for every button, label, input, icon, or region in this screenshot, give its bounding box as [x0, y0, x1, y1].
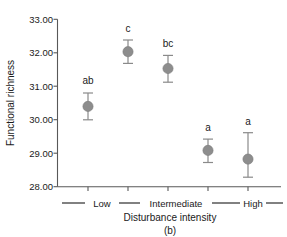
point-significance-label-5: a — [245, 116, 251, 127]
group-label-intermediate: Intermediate — [150, 198, 203, 209]
data-marker-3[interactable] — [163, 63, 173, 73]
y-tick-label: 33.00 — [29, 14, 53, 25]
data-point-group-3[interactable]: bc — [163, 38, 174, 82]
x-axis-group-brackets: Low Intermediate High — [62, 198, 283, 209]
x-axis-title: Disturbance intensity — [124, 212, 217, 223]
data-marker-1[interactable] — [83, 101, 93, 111]
figure-panel: Functional richness 33.00 32.00 31.00 30… — [0, 0, 287, 237]
group-label-high: High — [243, 198, 263, 209]
data-point-group-4[interactable]: a — [203, 122, 213, 163]
data-marker-4[interactable] — [203, 145, 213, 155]
point-significance-label-2: c — [126, 23, 131, 34]
point-significance-label-4: a — [205, 122, 211, 133]
y-tick-label: 28.00 — [29, 181, 53, 192]
y-axis-title: Functional richness — [5, 60, 16, 146]
point-significance-label-1: ab — [82, 75, 94, 86]
group-label-low: Low — [93, 198, 111, 209]
y-tick-label: 29.00 — [29, 148, 53, 159]
panel-caption: (b) — [164, 225, 176, 236]
x-axis-tick-marks — [88, 187, 248, 191]
data-point-group-2[interactable]: c — [123, 23, 133, 63]
y-tick-label: 30.00 — [29, 114, 53, 125]
data-point-group-5[interactable]: a — [243, 116, 253, 177]
y-tick-label: 31.00 — [29, 81, 53, 92]
functional-richness-scatter-chart: Functional richness 33.00 32.00 31.00 30… — [0, 0, 287, 237]
data-marker-5[interactable] — [243, 154, 253, 164]
y-tick-label: 32.00 — [29, 47, 53, 58]
y-axis-tick-labels: 33.00 32.00 31.00 30.00 29.00 28.00 — [29, 14, 53, 193]
y-axis-tick-marks — [54, 19, 58, 186]
data-point-group-1[interactable]: ab — [82, 75, 94, 120]
point-significance-label-3: bc — [163, 38, 174, 49]
data-marker-2[interactable] — [123, 47, 133, 57]
